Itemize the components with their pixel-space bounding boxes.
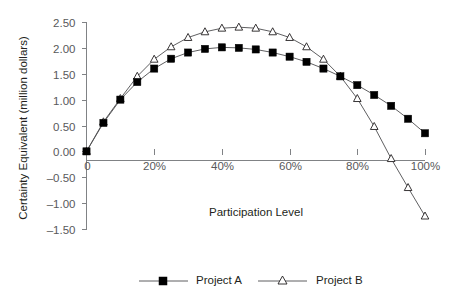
legend: Project A Project B — [139, 274, 363, 286]
series-line-project-a — [87, 47, 426, 151]
data-point-project-a — [134, 78, 141, 85]
data-point-project-b — [320, 55, 328, 62]
data-point-project-a — [218, 44, 225, 51]
data-point-project-b — [421, 212, 429, 219]
x-axis-title: Participation Level — [209, 206, 303, 218]
x-tick-label: 0 — [84, 160, 90, 172]
x-axis-ticks — [88, 149, 426, 155]
data-point-project-a — [269, 49, 276, 56]
x-tick-label: 20% — [143, 160, 166, 172]
series-markers-project-a — [83, 44, 429, 155]
data-point-project-a — [168, 55, 175, 62]
data-point-project-a — [83, 148, 90, 155]
data-point-project-a — [421, 130, 428, 137]
legend-item-project-b: Project B — [258, 274, 363, 286]
legend-label-project-b: Project B — [316, 274, 363, 286]
x-tick-label: 40% — [211, 160, 234, 172]
chart-figure: 2.502.001.501.000.500.00–0.50–1.00–1.50 … — [0, 0, 459, 303]
y-tick-label: 2.00 — [53, 43, 75, 55]
x-tick-label: 100% — [411, 160, 440, 172]
data-point-project-a — [252, 46, 259, 53]
y-tick-label: –1.00 — [47, 198, 76, 210]
y-axis-tick-labels: 2.502.001.501.000.500.00–0.50–1.00–1.50 — [47, 17, 76, 236]
data-point-project-b — [235, 23, 243, 30]
y-tick-label: 2.50 — [53, 17, 75, 29]
data-point-project-a — [235, 44, 242, 51]
data-point-project-b — [404, 184, 412, 191]
data-point-project-b — [167, 43, 175, 50]
data-point-project-a — [354, 82, 361, 89]
legend-label-project-a: Project A — [196, 274, 242, 286]
data-point-project-a — [303, 58, 310, 65]
certainty-equivalent-line-chart: 2.502.001.501.000.500.00–0.50–1.00–1.50 … — [0, 0, 459, 303]
x-axis: 020%40%60%80%100% — [84, 149, 440, 172]
data-point-project-b — [303, 43, 311, 50]
x-axis-tick-labels: 020%40%60%80%100% — [84, 160, 440, 172]
y-tick-label: 0.50 — [53, 121, 75, 133]
y-axis: 2.502.001.501.000.500.00–0.50–1.00–1.50 — [47, 17, 87, 236]
legend-marker-project-b — [278, 276, 287, 284]
plot-area — [83, 23, 429, 219]
data-point-project-a — [201, 45, 208, 52]
y-axis-title: Certainty Equivalent (million dollars) — [17, 36, 29, 220]
x-tick-label: 80% — [346, 160, 369, 172]
data-point-project-b — [387, 155, 395, 162]
data-point-project-a — [100, 119, 107, 126]
data-point-project-a — [320, 65, 327, 72]
y-tick-label: –1.50 — [47, 224, 76, 236]
y-tick-label: 1.50 — [53, 69, 75, 81]
data-point-project-a — [371, 91, 378, 98]
x-tick-label: 60% — [279, 160, 302, 172]
legend-marker-project-a — [159, 277, 167, 285]
data-point-project-a — [404, 115, 411, 122]
data-point-project-a — [151, 65, 158, 72]
y-tick-label: 0.00 — [53, 146, 75, 158]
data-point-project-b — [370, 122, 378, 129]
y-tick-label: –0.50 — [47, 172, 76, 184]
legend-item-project-a: Project A — [139, 274, 242, 286]
data-point-project-a — [286, 53, 293, 60]
data-point-project-a — [117, 96, 124, 103]
data-point-project-b — [150, 55, 158, 62]
data-point-project-a — [337, 73, 344, 80]
data-point-project-a — [184, 49, 191, 56]
data-point-project-a — [388, 102, 395, 109]
y-axis-ticks — [82, 23, 87, 230]
y-tick-label: 1.00 — [53, 95, 75, 107]
